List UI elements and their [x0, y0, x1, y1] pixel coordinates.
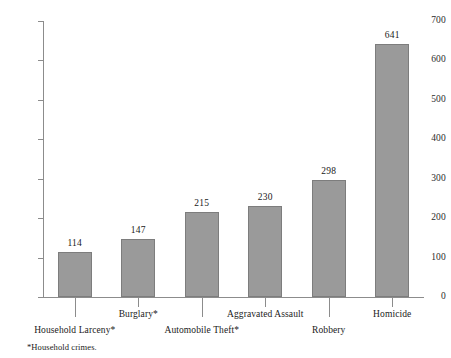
x-axis-category-label: Robbery — [259, 325, 399, 336]
chart-footnote: *Household crimes. — [27, 342, 97, 352]
x-axis-category-label: Automobile Theft* — [132, 325, 272, 336]
plot-area — [43, 21, 424, 297]
x-axis-category-label: Household Larceny* — [5, 325, 145, 336]
bar — [58, 252, 92, 297]
y-tick-mark — [38, 297, 43, 298]
bar — [185, 212, 219, 297]
bar — [121, 239, 155, 297]
x-tick-mark — [392, 298, 393, 307]
bar — [375, 44, 409, 297]
x-axis-line — [43, 297, 424, 298]
bar — [312, 180, 346, 297]
x-tick-mark — [138, 298, 139, 307]
bar-value-label: 298 — [299, 167, 359, 177]
bar-value-label: 114 — [45, 239, 105, 249]
bar — [248, 206, 282, 297]
x-axis-category-label: Aggravated Assault — [195, 309, 335, 320]
bar-value-label: 215 — [172, 199, 232, 209]
x-tick-mark — [265, 298, 266, 307]
y-axis — [0, 0, 43, 358]
bar-value-label: 147 — [108, 226, 168, 236]
x-axis-category-label: Homicide — [322, 309, 451, 320]
x-axis-category-label: Burglary* — [68, 309, 208, 320]
bar-value-label: 230 — [235, 193, 295, 203]
bar-value-label: 641 — [362, 31, 422, 41]
